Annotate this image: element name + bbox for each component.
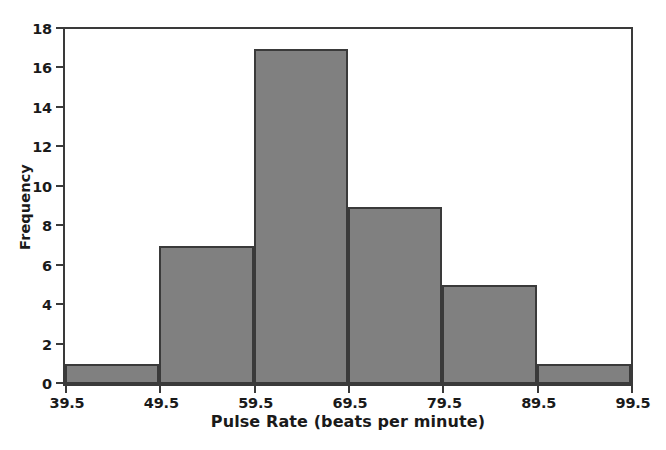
y-axis-tick-label: 2 (42, 337, 52, 353)
y-axis-tick: 6 (56, 264, 65, 266)
y-axis-tick: 0 (56, 382, 65, 384)
histogram-bar (159, 246, 253, 384)
histogram-bar (254, 49, 348, 384)
y-axis-tick-label: 8 (42, 218, 52, 234)
x-axis-tick-label: 99.5 (616, 395, 651, 411)
y-axis-tick-label: 10 (32, 179, 52, 195)
x-axis-tick-label: 39.5 (50, 395, 85, 411)
bars-layer (65, 29, 631, 384)
y-axis-tick: 16 (56, 66, 65, 68)
histogram-figure: Frequency 024681012141618 39.549.559.569… (0, 0, 666, 450)
x-axis-tick: 99.5 (631, 384, 633, 393)
x-axis-title-label: Pulse Rate (beats per minute) (211, 412, 485, 431)
x-axis-tick-label: 79.5 (427, 395, 462, 411)
x-axis-tick: 79.5 (442, 384, 444, 393)
y-axis-tick: 18 (56, 27, 65, 29)
y-axis-tick: 2 (56, 343, 65, 345)
x-axis-tick: 59.5 (254, 384, 256, 393)
y-axis-tick-label: 0 (42, 376, 52, 392)
y-axis-title-label: Frequency (17, 164, 33, 250)
y-axis-tick-label: 6 (42, 258, 52, 274)
y-axis-tick: 14 (56, 106, 65, 108)
x-axis-tick: 39.5 (65, 384, 67, 393)
y-axis-tick: 12 (56, 145, 65, 147)
y-axis-tick: 8 (56, 224, 65, 226)
histogram-bar (65, 364, 159, 384)
histogram-bar (537, 364, 631, 384)
y-axis-tick: 4 (56, 303, 65, 305)
histogram-bar (442, 285, 536, 384)
x-axis-tick-label: 59.5 (238, 395, 273, 411)
y-axis-tick-label: 4 (42, 297, 52, 313)
y-axis-tick-label: 12 (32, 139, 52, 155)
y-axis-tick-label: 16 (32, 60, 52, 76)
x-axis-tick: 49.5 (159, 384, 161, 393)
x-axis-tick-label: 69.5 (333, 395, 368, 411)
y-axis-tick-label: 18 (32, 21, 52, 37)
y-axis-tick: 10 (56, 185, 65, 187)
x-axis-tick-label: 89.5 (521, 395, 556, 411)
y-axis-tick-label: 14 (32, 100, 52, 116)
x-axis-tick-label: 49.5 (144, 395, 179, 411)
x-axis-tick: 69.5 (348, 384, 350, 393)
plot-area: 024681012141618 39.549.559.569.579.589.5… (63, 27, 633, 386)
histogram-bar (348, 207, 442, 385)
x-axis-tick: 89.5 (537, 384, 539, 393)
x-axis-title: Pulse Rate (beats per minute) (63, 412, 633, 431)
